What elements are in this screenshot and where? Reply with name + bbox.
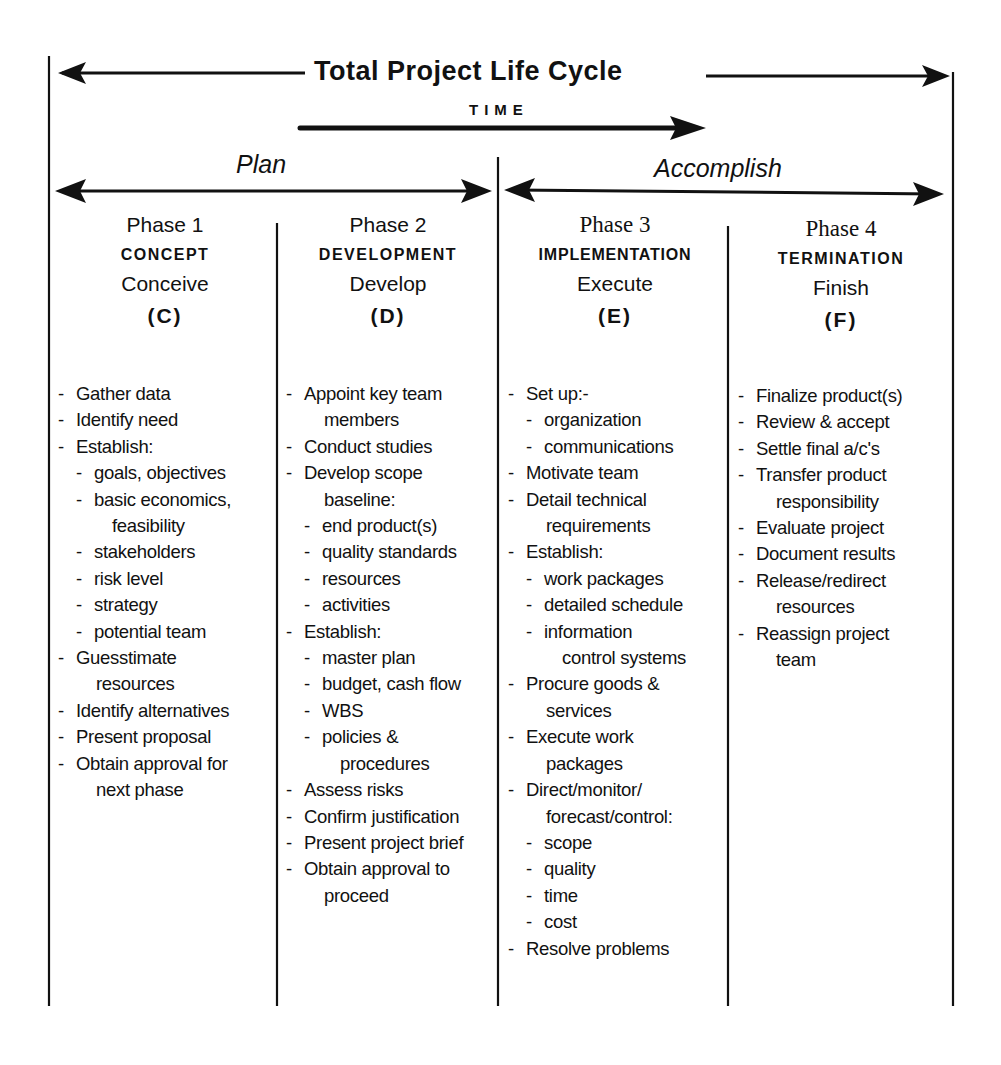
phase-code: (C) — [55, 298, 275, 334]
phase-number: Phase 1 — [55, 210, 275, 240]
task-item: Motivate team — [506, 460, 686, 486]
task-item: Reassign project — [736, 621, 902, 647]
task-item: Appoint key team — [284, 381, 463, 407]
task-item: resources — [56, 671, 231, 697]
phase-2-header: Phase 2 DEVELOPMENT Develop (D) — [278, 210, 498, 334]
era-accomplish-label: Accomplish — [654, 154, 782, 183]
phase-number: Phase 3 — [502, 210, 728, 240]
task-item: Set up:- — [506, 381, 686, 407]
phase-verb: Execute — [502, 270, 728, 298]
task-item: Review & accept — [736, 409, 902, 435]
task-item: forecast/control: — [506, 804, 686, 830]
phase-name: DEVELOPMENT — [278, 240, 498, 270]
task-item: Establish: — [506, 539, 686, 565]
sub-task-item: scope — [506, 830, 686, 856]
task-item: responsibility — [736, 489, 902, 515]
era-plan-label: Plan — [236, 150, 286, 179]
sub-task-item: control systems — [506, 645, 686, 671]
task-item: Guesstimate — [56, 645, 231, 671]
task-item: Evaluate project — [736, 515, 902, 541]
task-item: Detail technical — [506, 487, 686, 513]
sub-task-item: procedures — [284, 751, 463, 777]
sub-task-item: work packages — [506, 566, 686, 592]
task-item: Establish: — [56, 434, 231, 460]
sub-task-item: goals, objectives — [56, 460, 231, 486]
task-item: Establish: — [284, 619, 463, 645]
sub-task-item: information — [506, 619, 686, 645]
sub-task-item: stakeholders — [56, 539, 231, 565]
sub-task-item: quality — [506, 856, 686, 882]
phase-3-header: Phase 3 IMPLEMENTATION Execute (E) — [502, 210, 728, 334]
sub-task-item: feasibility — [56, 513, 231, 539]
phase-code: (F) — [730, 302, 952, 338]
phase-3-task-list: Set up:-organizationcommunicationsMotiva… — [506, 381, 686, 962]
sub-task-item: policies & — [284, 724, 463, 750]
phase-4-task-list: Finalize product(s)Review & acceptSettle… — [736, 383, 902, 673]
time-label: TIME — [469, 101, 529, 118]
phase-number: Phase 4 — [730, 214, 952, 244]
task-item: Transfer product — [736, 462, 902, 488]
sub-task-item: master plan — [284, 645, 463, 671]
task-item: Settle final a/c's — [736, 436, 902, 462]
sub-task-item: time — [506, 883, 686, 909]
time-arrow-icon — [300, 116, 706, 140]
task-item: members — [284, 407, 463, 433]
phase-name: CONCEPT — [55, 240, 275, 270]
task-item: Present proposal — [56, 724, 231, 750]
diagram-title: Total Project Life Cycle — [306, 56, 631, 87]
sub-task-item: activities — [284, 592, 463, 618]
task-item: Resolve problems — [506, 936, 686, 962]
sub-task-item: end product(s) — [284, 513, 463, 539]
sub-task-item: potential team — [56, 619, 231, 645]
task-item: Identify need — [56, 407, 231, 433]
sub-task-item: cost — [506, 909, 686, 935]
task-item: proceed — [284, 883, 463, 909]
phase-code: (E) — [502, 298, 728, 334]
phase-name: IMPLEMENTATION — [502, 240, 728, 270]
task-item: Assess risks — [284, 777, 463, 803]
sub-task-item: basic economics, — [56, 487, 231, 513]
sub-task-item: risk level — [56, 566, 231, 592]
sub-task-item: resources — [284, 566, 463, 592]
task-item: Confirm justification — [284, 804, 463, 830]
phase-2-task-list: Appoint key teammembersConduct studiesDe… — [284, 381, 463, 909]
task-item: requirements — [506, 513, 686, 539]
task-item: Obtain approval to — [284, 856, 463, 882]
sub-task-item: strategy — [56, 592, 231, 618]
task-item: next phase — [56, 777, 231, 803]
task-item: resources — [736, 594, 902, 620]
task-item: Develop scope — [284, 460, 463, 486]
sub-task-item: WBS — [284, 698, 463, 724]
task-item: Release/redirect — [736, 568, 902, 594]
sub-task-item: budget, cash flow — [284, 671, 463, 697]
plan-arrow-icon — [55, 179, 492, 203]
task-item: Direct/monitor/ — [506, 777, 686, 803]
task-item: services — [506, 698, 686, 724]
phase-code: (D) — [278, 298, 498, 334]
phase-1-header: Phase 1 CONCEPT Conceive (C) — [55, 210, 275, 334]
sub-task-item: communications — [506, 434, 686, 460]
task-item: baseline: — [284, 487, 463, 513]
life-cycle-arrow-left-icon — [58, 62, 305, 84]
phase-number: Phase 2 — [278, 210, 498, 240]
sub-task-item: detailed schedule — [506, 592, 686, 618]
task-item: Conduct studies — [284, 434, 463, 460]
life-cycle-arrow-right-icon — [706, 65, 950, 87]
task-item: Present project brief — [284, 830, 463, 856]
sub-task-item: organization — [506, 407, 686, 433]
phase-name: TERMINATION — [730, 244, 952, 274]
task-item: Finalize product(s) — [736, 383, 902, 409]
phase-1-task-list: Gather dataIdentify needEstablish:goals,… — [56, 381, 231, 804]
phase-verb: Conceive — [55, 270, 275, 298]
task-item: Execute work — [506, 724, 686, 750]
phase-4-header: Phase 4 TERMINATION Finish (F) — [730, 214, 952, 338]
task-item: Procure goods & — [506, 671, 686, 697]
task-item: team — [736, 647, 902, 673]
task-item: packages — [506, 751, 686, 777]
phase-verb: Develop — [278, 270, 498, 298]
task-item: Identify alternatives — [56, 698, 231, 724]
task-item: Gather data — [56, 381, 231, 407]
phase-verb: Finish — [730, 274, 952, 302]
task-item: Document results — [736, 541, 902, 567]
sub-task-item: quality standards — [284, 539, 463, 565]
